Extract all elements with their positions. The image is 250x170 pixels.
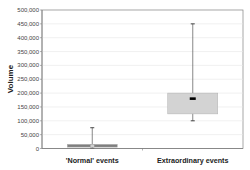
y-tick-label: 50,000 bbox=[21, 132, 40, 138]
y-tick-label: 400,000 bbox=[17, 35, 39, 41]
y-tick-label: 150,000 bbox=[17, 104, 39, 110]
x-category-label: Extraordinary events bbox=[157, 156, 229, 165]
median-marker bbox=[190, 97, 196, 100]
box-normal-events bbox=[67, 128, 117, 149]
gridlines bbox=[42, 10, 243, 149]
x-axis: 'Normal' eventsExtraordinary events bbox=[42, 149, 243, 166]
y-tick-label: 200,000 bbox=[17, 90, 39, 96]
y-tick-label: 450,000 bbox=[17, 21, 39, 27]
y-axis-title: Volume bbox=[6, 64, 15, 93]
y-tick-label: 100,000 bbox=[17, 118, 39, 124]
iqr-box bbox=[168, 93, 218, 114]
y-tick-label: 250,000 bbox=[17, 76, 39, 82]
y-tick-label: 350,000 bbox=[17, 49, 39, 55]
box-plot-chart: 050,000100,000150,000200,000250,000300,0… bbox=[0, 0, 250, 170]
y-tick-label: 300,000 bbox=[17, 62, 39, 68]
median-marker bbox=[90, 144, 94, 147]
x-category-label: 'Normal' events bbox=[66, 156, 119, 165]
box-series bbox=[67, 24, 218, 149]
y-tick-label: 0 bbox=[36, 146, 40, 152]
y-axis: 050,000100,000150,000200,000250,000300,0… bbox=[17, 7, 42, 152]
box-extraordinary-events bbox=[168, 24, 218, 121]
y-tick-label: 500,000 bbox=[17, 7, 39, 13]
